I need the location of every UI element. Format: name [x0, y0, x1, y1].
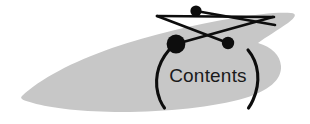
figure-canvas: Contents [0, 0, 310, 124]
node-right [222, 37, 234, 49]
link-leftend-to-rightend [157, 16, 274, 17]
node-top [190, 5, 201, 16]
contents-graphic-figure: Contents [0, 0, 310, 124]
contents-label: Contents [169, 65, 247, 86]
